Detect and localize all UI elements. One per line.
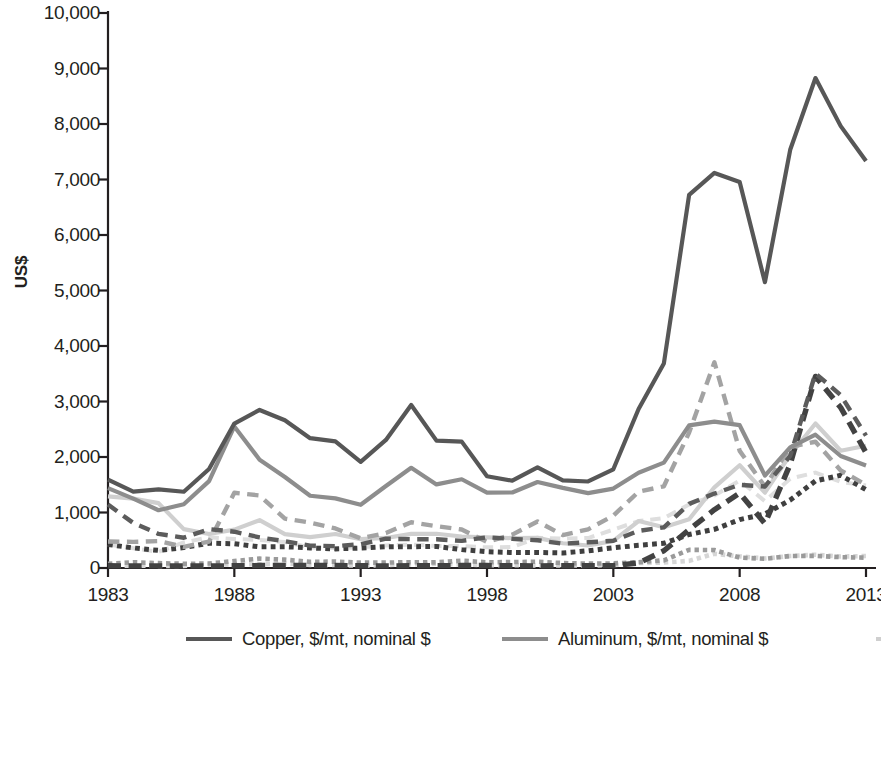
chart-legend: Copper, $/mt, nominal $Aluminum, $/mt, n…	[186, 624, 876, 654]
legend-item[interactable]: Tin, cents/kg, nominal $	[876, 624, 881, 654]
series-line	[108, 550, 866, 564]
legend-swatch-icon	[502, 632, 548, 646]
legend-item[interactable]: Aluminum, $/mt, nominal $	[502, 624, 876, 654]
commodity-price-line-chart: US$ 01,0002,0003,0004,0005,0006,0007,000…	[0, 0, 881, 774]
series-line	[108, 78, 866, 492]
series-line	[108, 373, 866, 546]
legend-swatch-icon	[186, 632, 232, 646]
plot-area	[0, 0, 881, 774]
legend-label: Aluminum, $/mt, nominal $	[558, 628, 768, 650]
legend-swatch-icon	[876, 632, 881, 646]
legend-label: Copper, $/mt, nominal $	[242, 628, 430, 650]
legend-item[interactable]: Copper, $/mt, nominal $	[186, 624, 502, 654]
